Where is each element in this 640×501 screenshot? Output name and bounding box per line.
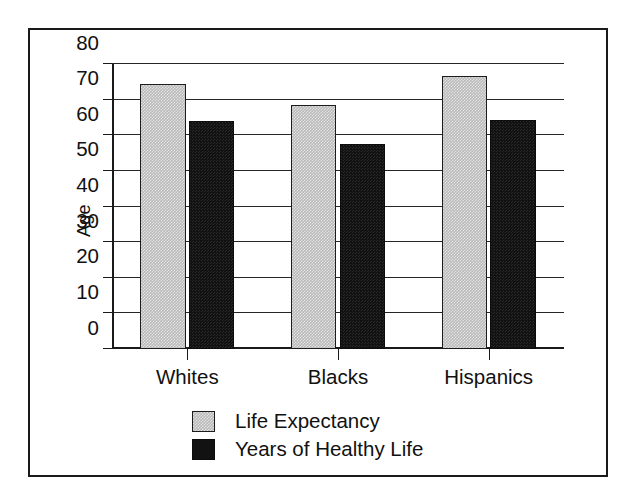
y-tick-mark-0	[103, 348, 112, 349]
y-axis-line	[112, 64, 114, 349]
y-tick-mark-20	[103, 277, 112, 278]
bar-blacks-life-expectancy	[291, 105, 336, 349]
bar-blacks-years-of-healthy-life	[340, 144, 385, 349]
legend-item-life-expectancy: Life Expectancy	[192, 409, 423, 433]
legend-item-years-of-healthy-life: Years of Healthy Life	[192, 437, 423, 461]
y-tick-label-50: 50	[76, 140, 99, 161]
y-tick-label-10: 10	[76, 282, 99, 303]
chart-figure-frame: Age 80706050403020100 WhitesBlacksHispan…	[28, 28, 608, 477]
y-tick-label-30: 30	[76, 211, 99, 232]
y-tick-mark-60	[103, 134, 112, 135]
bar-hispanics-life-expectancy	[442, 76, 487, 349]
y-tick-label-20: 20	[76, 247, 99, 268]
legend-label: Years of Healthy Life	[235, 437, 423, 461]
bar-whites-life-expectancy	[140, 84, 185, 349]
y-tick-label-40: 40	[76, 175, 99, 196]
y-tick-mark-10	[103, 312, 112, 313]
legend-label: Life Expectancy	[235, 409, 380, 433]
bar-whites-years-of-healthy-life	[189, 121, 234, 349]
y-tick-label-0: 0	[88, 318, 99, 339]
legend-swatch-light-gray	[192, 411, 215, 432]
x-tick-mark-whites	[187, 349, 188, 360]
plot-area: 80706050403020100 WhitesBlacksHispanics	[112, 64, 564, 349]
y-tick-label-80: 80	[76, 33, 99, 54]
x-axis-label-blacks: Blacks	[308, 365, 368, 389]
y-tick-label-70: 70	[76, 68, 99, 89]
y-tick-mark-30	[103, 241, 112, 242]
legend-swatch-black	[192, 439, 215, 460]
bar-hispanics-years-of-healthy-life	[490, 120, 535, 349]
x-tick-mark-hispanics	[489, 349, 490, 360]
gridline-80	[112, 63, 564, 64]
y-tick-mark-40	[103, 206, 112, 207]
x-axis-label-whites: Whites	[156, 365, 219, 389]
y-tick-mark-70	[103, 99, 112, 100]
x-axis-label-hispanics: Hispanics	[444, 365, 533, 389]
chart-legend: Life ExpectancyYears of Healthy Life	[192, 409, 423, 461]
y-tick-label-60: 60	[76, 104, 99, 125]
x-tick-mark-blacks	[338, 349, 339, 360]
y-tick-mark-80	[103, 63, 112, 64]
y-tick-mark-50	[103, 170, 112, 171]
